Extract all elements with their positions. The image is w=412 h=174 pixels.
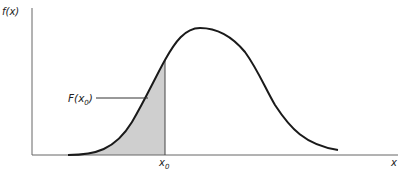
density-curve (68, 28, 338, 155)
cdf-label-suffix: ) (89, 92, 93, 104)
density-plot (0, 0, 412, 174)
x-axis-label: x (391, 157, 397, 168)
cdf-label-prefix: F(x (68, 92, 84, 104)
density-figure: f(x) x x0 F(x0) (0, 0, 412, 174)
y-axis-label: f(x) (2, 6, 19, 17)
cdf-area-label: F(x0) (68, 92, 93, 107)
x0-label-sub: 0 (165, 163, 169, 171)
x0-label: x0 (159, 157, 169, 171)
